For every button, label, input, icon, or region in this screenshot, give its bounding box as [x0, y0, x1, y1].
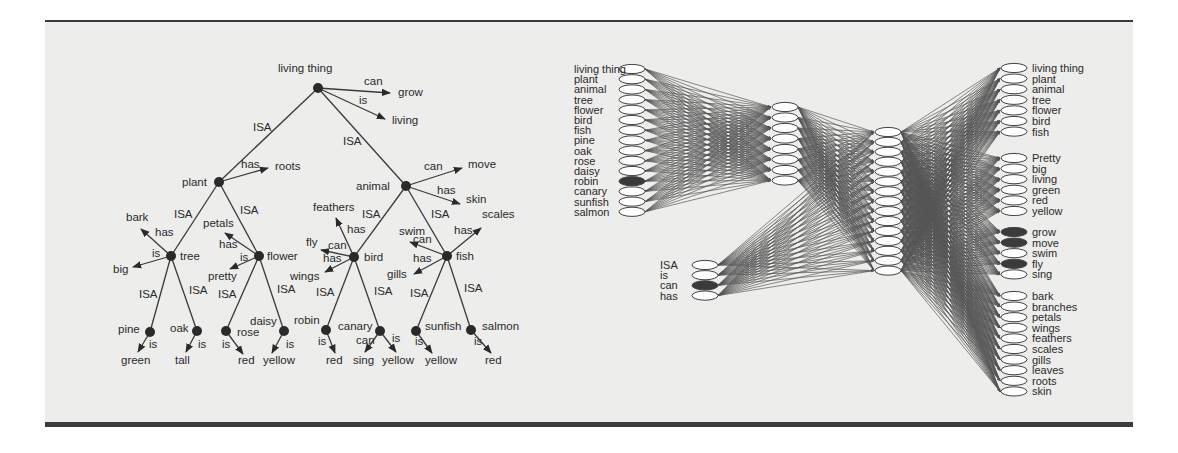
hidden-unit — [875, 137, 901, 146]
network-connection — [718, 191, 874, 295]
relation-label: has — [454, 224, 473, 236]
item-unit-animal — [619, 85, 645, 94]
isa-label: ISA — [431, 208, 450, 220]
concept-node-pine — [145, 327, 155, 337]
network-connections — [645, 68, 1000, 391]
concept-label: canary — [338, 320, 373, 332]
representation-unit — [772, 165, 798, 174]
concept-node-salmon — [466, 325, 476, 335]
output-unit-has-skin — [1001, 387, 1027, 396]
hidden-unit — [875, 226, 901, 235]
output-unit-isa-tree — [1001, 95, 1027, 104]
relation-label: has — [437, 184, 456, 196]
isa-label: ISA — [343, 135, 362, 147]
representation-unit — [772, 123, 798, 132]
concept-label: sunfish — [425, 320, 461, 332]
attribute-label: living — [392, 114, 418, 126]
attribute-label: petals — [203, 217, 234, 229]
hidden-unit — [875, 207, 901, 216]
concept-node-oak — [192, 326, 202, 336]
output-unit-has-branches — [1001, 302, 1027, 311]
output-unit-isa-animal — [1001, 85, 1027, 94]
attribute-label: roots — [275, 160, 301, 172]
hidden-unit — [875, 236, 901, 245]
attribute-label: sing — [353, 354, 374, 366]
output-label: sing — [1032, 268, 1052, 280]
concept-node-bird — [349, 252, 359, 262]
output-label: fish — [1032, 126, 1049, 138]
output-unit-can-move — [1001, 238, 1027, 247]
output-unit-can-fly — [1001, 259, 1027, 268]
relation-label: is — [415, 335, 424, 347]
output-unit-has-wings — [1001, 323, 1027, 332]
concept-label: bird — [364, 251, 383, 263]
relation-label: can — [424, 160, 443, 172]
relation-unit-is — [692, 271, 718, 280]
relation-label: is — [474, 335, 483, 347]
item-unit-canary — [619, 187, 645, 196]
concept-node-tree — [166, 251, 176, 261]
relation-label: is — [286, 338, 295, 350]
concept-label: robin — [294, 314, 320, 326]
item-unit-robin — [619, 177, 645, 186]
relation-label: can — [328, 239, 347, 251]
representation-unit — [772, 155, 798, 164]
isa-link — [354, 186, 406, 257]
concept-node-animal — [401, 181, 411, 191]
item-unit-bird — [619, 115, 645, 124]
representation-unit — [772, 134, 798, 143]
item-unit-sunfish — [619, 197, 645, 206]
representation-unit — [772, 144, 798, 153]
output-unit-is-green — [1001, 185, 1027, 194]
output-unit-has-leaves — [1001, 366, 1027, 375]
output-unit-has-feathers — [1001, 334, 1027, 343]
relation-label: is — [149, 338, 158, 350]
hidden-unit — [875, 167, 901, 176]
relation-label: is — [240, 251, 249, 263]
relation-unit-can — [692, 281, 718, 290]
attribute-label: grow — [398, 86, 424, 98]
output-unit-is-pretty — [1001, 153, 1027, 162]
concept-label: salmon — [482, 320, 519, 332]
attribute-label: skin — [466, 193, 486, 205]
output-unit-is-yellow — [1001, 206, 1027, 215]
concept-node-canary — [375, 326, 385, 336]
isa-label: ISA — [316, 286, 335, 298]
attribute-label: pretty — [208, 270, 237, 282]
concept-label: flower — [267, 250, 298, 262]
relation-label: can — [356, 334, 375, 346]
item-label: salmon — [574, 206, 609, 218]
attribute-label: yellow — [382, 354, 415, 366]
concept-label: pine — [118, 323, 140, 335]
isa-label: ISA — [174, 208, 193, 220]
output-unit-isa-flower — [1001, 106, 1027, 115]
item-unit-rose — [619, 156, 645, 165]
hidden-unit — [875, 177, 901, 186]
isa-label: ISA — [189, 284, 208, 296]
relation-label: is — [152, 247, 161, 259]
output-unit-is-living — [1001, 175, 1027, 184]
output-unit-is-big — [1001, 164, 1027, 173]
relation-label: is — [222, 338, 231, 350]
attribute-label: yellow — [263, 354, 296, 366]
attribute-label: red — [485, 354, 502, 366]
hidden-unit — [875, 147, 901, 156]
hidden-unit — [875, 197, 901, 206]
hidden-unit — [875, 217, 901, 226]
hidden-unit — [875, 246, 901, 255]
item-unit-oak — [619, 146, 645, 155]
attribute-label: move — [468, 158, 496, 170]
attribute-label: tall — [175, 354, 190, 366]
property-link-is — [318, 88, 385, 119]
item-unit-plant — [619, 75, 645, 84]
output-unit-isa-living-thing — [1001, 63, 1027, 72]
isa-link — [219, 88, 318, 182]
concept-label: tree — [180, 250, 200, 262]
isa-links: ISAISAISAISAISAISAISAISAISAISAISAISAISAI… — [139, 88, 483, 332]
output-unit-can-grow — [1001, 227, 1027, 236]
relation-label: is — [392, 332, 401, 344]
semantic-network-tree: ISAISAISAISAISAISAISAISAISAISAISAISAISAI… — [0, 0, 1178, 453]
output-unit-is-red — [1001, 196, 1027, 205]
isa-label: ISA — [218, 288, 237, 300]
hidden-unit — [875, 127, 901, 136]
